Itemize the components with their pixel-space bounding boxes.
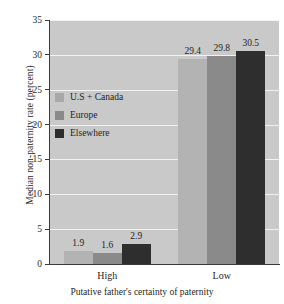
y-axis-tick: 20	[33, 119, 51, 131]
legend-swatch-icon	[55, 129, 64, 138]
bar[interactable]	[93, 253, 122, 264]
y-axis-tick: 15	[33, 153, 51, 165]
x-axis-category-label: Low	[165, 270, 280, 281]
legend-swatch-icon	[55, 93, 64, 102]
legend-item[interactable]: Elsewhere	[55, 124, 175, 142]
y-axis-tick-label: 5	[37, 223, 45, 235]
x-axis-category-label: High	[50, 270, 165, 281]
y-axis-tick-label: 10	[33, 188, 46, 200]
plot-area	[50, 20, 279, 264]
x-axis-title: Putative father's certainty of paternity	[0, 287, 284, 297]
gridline	[50, 20, 279, 21]
bar[interactable]	[122, 244, 151, 264]
bar-value-label: 2.9	[118, 231, 155, 241]
bar[interactable]	[236, 51, 265, 264]
y-axis-tick-label: 0	[37, 258, 45, 270]
bar-chart: Median non-paternity rate (percent) 0510…	[0, 0, 284, 304]
bar-value-label: 1.6	[89, 240, 126, 250]
legend-item-label: Europe	[70, 110, 97, 120]
y-axis-tick-group: 05101520253035	[0, 0, 50, 304]
legend-swatch-icon	[55, 111, 64, 120]
x-axis-line	[49, 264, 280, 265]
y-axis-tick: 10	[33, 188, 51, 200]
bar-value-label: 30.5	[232, 38, 269, 48]
y-axis-tick-label: 25	[33, 84, 46, 96]
legend-item[interactable]: Europe	[55, 106, 175, 124]
bar[interactable]	[178, 59, 207, 264]
legend-item-label: Elsewhere	[70, 128, 110, 138]
bar[interactable]	[64, 251, 93, 264]
y-axis-tick: 30	[33, 49, 51, 61]
y-axis-tick: 35	[33, 14, 51, 26]
y-axis-tick-label: 30	[33, 49, 46, 61]
legend-item-label: U.S + Canada	[70, 92, 123, 102]
legend-item[interactable]: U.S + Canada	[55, 88, 175, 106]
y-axis-tick: 25	[33, 84, 51, 96]
legend: U.S + CanadaEuropeElsewhere	[55, 88, 175, 142]
y-axis-tick-label: 15	[33, 153, 46, 165]
bar[interactable]	[207, 56, 236, 264]
y-axis-tick-label: 20	[33, 119, 46, 131]
y-axis-tick-label: 35	[33, 14, 46, 26]
